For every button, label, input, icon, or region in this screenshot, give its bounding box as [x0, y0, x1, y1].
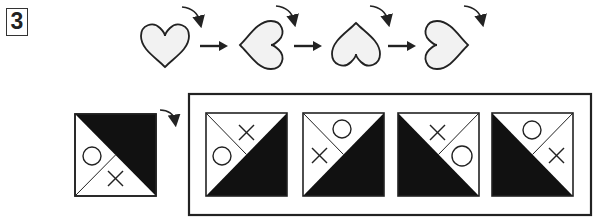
- right-arrow-icon: [388, 41, 416, 51]
- right-arrow-icon: [294, 41, 322, 51]
- answer-choice-1[interactable]: [206, 113, 287, 196]
- right-arrow-icon: [200, 41, 228, 51]
- puzzle-figure: [0, 0, 594, 219]
- heart-icon-180deg: [332, 23, 380, 65]
- rotate-cw-arrow-icon: [276, 6, 294, 21]
- heart-icon-270deg: [426, 21, 468, 69]
- answer-choice-2[interactable]: [303, 113, 384, 196]
- heart-icon-90deg: [240, 21, 282, 69]
- answer-choice-4[interactable]: [492, 113, 573, 196]
- answer-choice-3[interactable]: [398, 113, 479, 196]
- rotate-cw-arrow-icon: [160, 110, 175, 121]
- question-figure: [75, 114, 156, 196]
- rotate-cw-arrow-icon: [182, 7, 200, 22]
- rotate-cw-arrow-icon: [370, 6, 388, 21]
- heart-icon-0deg: [141, 25, 189, 67]
- rotate-cw-arrow-icon: [464, 6, 482, 21]
